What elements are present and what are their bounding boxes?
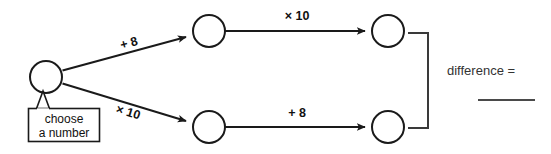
number-machine-diagram: + 8 × 10 × 10 + 8 choose a number differ… <box>0 0 551 154</box>
diagram-canvas: + 8 × 10 × 10 + 8 choose a number differ… <box>0 0 551 154</box>
top-middle-node[interactable] <box>193 15 225 47</box>
difference-label: difference = <box>447 63 515 78</box>
callout-choose-a-number: choose a number <box>29 91 100 142</box>
result-bracket <box>408 33 428 128</box>
edge-label-bottom-middle-to-right: + 8 <box>288 106 306 120</box>
edge-label-top-middle-to-right: × 10 <box>285 9 310 23</box>
start-node[interactable] <box>30 61 62 93</box>
bottom-middle-node[interactable] <box>193 111 225 143</box>
top-right-node[interactable] <box>372 15 404 47</box>
callout-line-1: choose <box>45 112 84 126</box>
callout-line-2: a number <box>39 126 90 140</box>
edge-label-start-to-bottom: × 10 <box>114 102 142 123</box>
bottom-right-node[interactable] <box>372 111 404 143</box>
